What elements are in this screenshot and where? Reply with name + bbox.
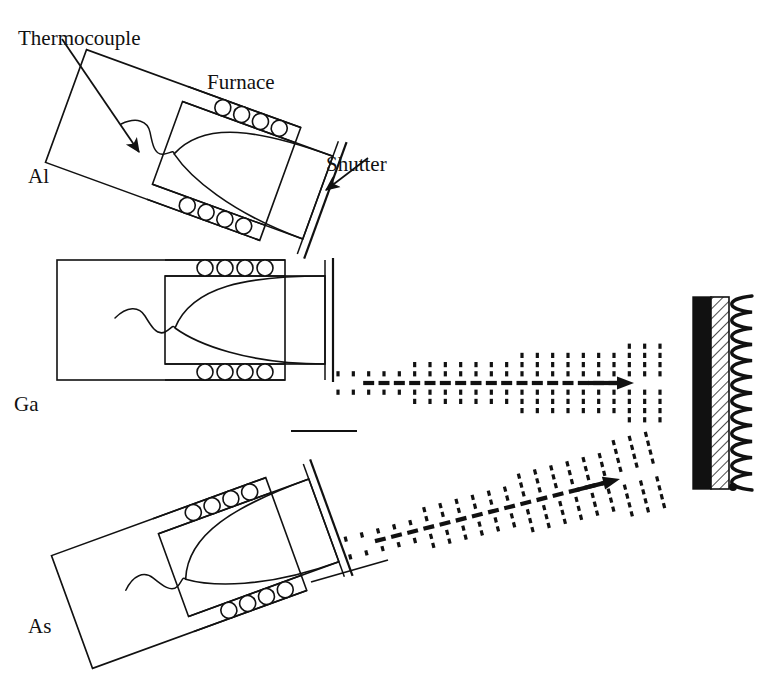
beam-dash — [555, 483, 556, 488]
beam-dash — [537, 478, 538, 483]
beam-dash — [629, 502, 630, 507]
beam-dash — [504, 487, 505, 492]
beam-dash — [567, 461, 568, 466]
label-al: Al — [28, 164, 49, 188]
beam-dash — [377, 528, 378, 533]
heater-terminal-dot — [729, 483, 737, 491]
beam-axis-segment — [537, 497, 548, 500]
beam-dash — [599, 453, 600, 458]
beam-dash — [608, 489, 609, 494]
beam-dash — [659, 485, 660, 490]
beam-dash — [576, 497, 577, 502]
beam-axis-segment — [440, 522, 451, 525]
beam-dash — [601, 462, 602, 467]
beam-axis-segment — [472, 514, 483, 517]
beam-dash — [569, 470, 570, 475]
beam-axis-segment — [553, 493, 564, 496]
beam-dash — [458, 508, 459, 513]
beam-dash — [447, 530, 448, 535]
beam-dash — [597, 511, 598, 516]
beam-dash — [534, 469, 535, 474]
beam-dash — [546, 514, 547, 519]
beam-dash — [497, 526, 498, 531]
beam-dash — [350, 554, 351, 559]
beam-dash — [521, 482, 522, 487]
beam-dash — [398, 542, 399, 547]
beam-dash — [433, 543, 434, 548]
beam-dash — [631, 445, 632, 450]
beam-dash — [562, 510, 563, 515]
beam-dash — [615, 449, 616, 454]
beam-dash — [532, 527, 533, 532]
beam-dash — [560, 501, 561, 506]
beam-dash — [518, 474, 519, 479]
beam-dash — [578, 506, 579, 511]
beam-dash — [548, 523, 549, 528]
beam-axis-segment — [375, 538, 386, 541]
beam-dash — [523, 491, 524, 496]
beam-dash — [456, 499, 457, 504]
beam-dash — [594, 502, 595, 507]
beam-dash — [382, 546, 383, 551]
beam-dash — [610, 498, 611, 503]
diagram-canvas: ThermocoupleFurnaceShutterAlGaAs — [0, 0, 775, 678]
label-as: As — [28, 614, 51, 638]
label-shutter: Shutter — [326, 152, 387, 176]
beam-dash — [624, 485, 625, 490]
beam-dash — [465, 535, 466, 540]
beam-dash — [592, 493, 593, 498]
beam-dash — [634, 454, 635, 459]
beam-axis-segment — [407, 530, 418, 533]
label-ga: Ga — [14, 392, 39, 416]
beam-dash — [587, 475, 588, 480]
beam-dash — [647, 507, 648, 512]
substrate-black-bar — [693, 297, 711, 489]
beam-axis-segment — [423, 526, 434, 529]
beam-dash — [643, 489, 644, 494]
beam-dash — [539, 487, 540, 492]
beam-dash — [530, 518, 531, 523]
beam-axis-segment — [520, 501, 531, 504]
beam-dash — [627, 494, 628, 499]
beam-dash — [472, 495, 473, 500]
beam-dash — [663, 503, 664, 508]
beam-dash — [580, 515, 581, 520]
beam-dash — [650, 450, 651, 455]
beam-dash — [511, 513, 512, 518]
beam-dash — [507, 496, 508, 501]
beam-dash — [463, 526, 464, 531]
beam-dash — [629, 436, 630, 441]
beam-dash — [661, 494, 662, 499]
beam-dash — [488, 491, 489, 496]
substrate-holder-hatched — [711, 297, 729, 489]
beam-dash — [645, 498, 646, 503]
beam-dash — [618, 458, 619, 463]
mbe-schematic: ThermocoupleFurnaceShutterAlGaAs — [0, 0, 775, 678]
beam-axis-segment — [391, 534, 402, 537]
beam-dash — [366, 550, 367, 555]
beam-dash — [645, 432, 646, 437]
beam-dash — [345, 537, 346, 542]
beam-dash — [495, 517, 496, 522]
beam-dash — [361, 532, 362, 537]
beam-dash — [414, 538, 415, 543]
beam-axis-segment — [456, 518, 467, 521]
beam-dash — [583, 457, 584, 462]
beam-dash — [585, 466, 586, 471]
beam-dash — [571, 479, 572, 484]
label-thermocouple: Thermocouple — [18, 26, 140, 50]
beam-dash — [481, 530, 482, 535]
beam-dash — [430, 534, 431, 539]
beam-dash — [527, 509, 528, 514]
beam-dash — [449, 539, 450, 544]
beam-dash — [613, 440, 614, 445]
beam-dash — [553, 474, 554, 479]
beam-dash — [564, 519, 565, 524]
beam-dash — [474, 504, 475, 509]
beam-dash — [442, 512, 443, 517]
beam-dash — [640, 481, 641, 486]
beam-dash — [631, 511, 632, 516]
beam-dash — [513, 522, 514, 527]
beam-dash — [491, 500, 492, 505]
beam-dash — [410, 520, 411, 525]
